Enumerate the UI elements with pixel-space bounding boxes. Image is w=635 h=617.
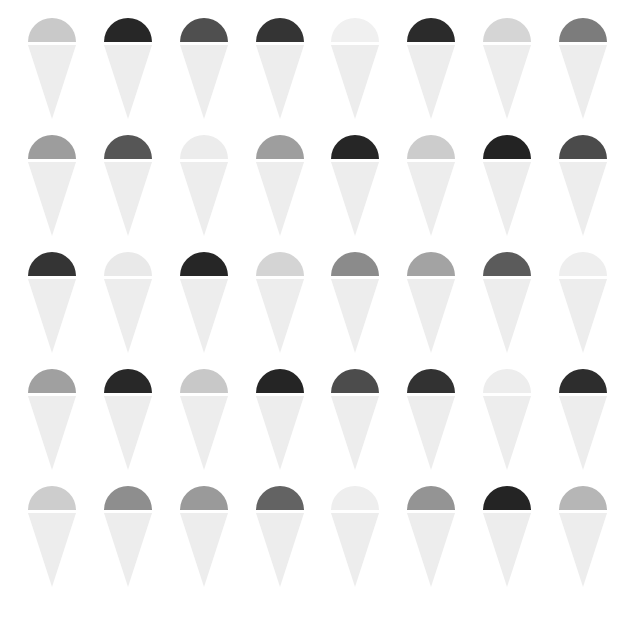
grid-cell	[242, 18, 318, 135]
cone-body	[331, 162, 379, 236]
cone-body	[28, 396, 76, 470]
cone-body	[28, 45, 76, 119]
cone-dome	[180, 135, 228, 159]
ice-cream-cone-icon	[483, 18, 531, 119]
ice-cream-cone-icon	[483, 486, 531, 587]
cone-body	[256, 45, 304, 119]
cone-body	[407, 396, 455, 470]
icon-grid-canvas	[0, 0, 635, 617]
cone-dome	[407, 369, 455, 393]
ice-cream-cone-icon	[180, 252, 228, 353]
grid-cell	[469, 18, 545, 135]
grid-cell	[166, 252, 242, 369]
cone-body	[180, 162, 228, 236]
cone-dome	[104, 252, 152, 276]
cone-dome	[483, 369, 531, 393]
grid-cell	[90, 18, 166, 135]
ice-cream-cone-icon	[104, 135, 152, 236]
grid-cell	[393, 252, 469, 369]
cone-dome	[256, 135, 304, 159]
grid-cell	[242, 369, 318, 486]
ice-cream-cone-icon	[407, 486, 455, 587]
cone-dome	[180, 18, 228, 42]
cone-dome	[559, 369, 607, 393]
ice-cream-cone-icon	[28, 252, 76, 353]
cone-body	[559, 396, 607, 470]
cone-dome	[331, 18, 379, 42]
cone-body	[28, 513, 76, 587]
cone-dome	[180, 369, 228, 393]
ice-cream-cone-icon	[559, 486, 607, 587]
cone-body	[256, 396, 304, 470]
ice-cream-cone-icon	[559, 18, 607, 119]
ice-cream-cone-icon	[331, 369, 379, 470]
cone-body	[331, 279, 379, 353]
cone-body	[180, 45, 228, 119]
grid-cell	[90, 486, 166, 603]
cone-body	[483, 279, 531, 353]
cone-dome	[407, 252, 455, 276]
ice-cream-cone-icon	[180, 18, 228, 119]
grid-cell	[14, 135, 90, 252]
cone-body	[559, 162, 607, 236]
cone-body	[180, 513, 228, 587]
ice-cream-cone-icon	[104, 18, 152, 119]
cone-body	[104, 279, 152, 353]
cone-body	[483, 513, 531, 587]
ice-cream-cone-icon	[559, 135, 607, 236]
ice-cream-cone-icon	[180, 369, 228, 470]
grid-cell	[393, 18, 469, 135]
cone-dome	[407, 486, 455, 510]
ice-cream-cone-icon	[559, 252, 607, 353]
grid-cell	[242, 252, 318, 369]
cone-icon-grid	[0, 0, 635, 617]
ice-cream-cone-icon	[28, 135, 76, 236]
cone-body	[104, 513, 152, 587]
grid-cell	[545, 18, 621, 135]
ice-cream-cone-icon	[256, 486, 304, 587]
cone-dome	[483, 486, 531, 510]
grid-cell	[318, 369, 394, 486]
cone-body	[180, 279, 228, 353]
ice-cream-cone-icon	[483, 252, 531, 353]
cone-dome	[407, 135, 455, 159]
cone-body	[256, 162, 304, 236]
cone-dome	[28, 135, 76, 159]
cone-dome	[559, 486, 607, 510]
cone-dome	[104, 18, 152, 42]
cone-dome	[104, 135, 152, 159]
grid-cell	[242, 135, 318, 252]
cone-body	[331, 396, 379, 470]
cone-body	[407, 45, 455, 119]
cone-body	[407, 513, 455, 587]
cone-dome	[256, 486, 304, 510]
ice-cream-cone-icon	[407, 252, 455, 353]
grid-cell	[469, 369, 545, 486]
cone-dome	[28, 252, 76, 276]
ice-cream-cone-icon	[407, 135, 455, 236]
grid-cell	[14, 486, 90, 603]
grid-cell	[545, 369, 621, 486]
grid-cell	[90, 135, 166, 252]
ice-cream-cone-icon	[407, 369, 455, 470]
cone-body	[28, 162, 76, 236]
grid-cell	[318, 18, 394, 135]
grid-cell	[318, 252, 394, 369]
cone-body	[331, 513, 379, 587]
grid-cell	[90, 252, 166, 369]
ice-cream-cone-icon	[256, 18, 304, 119]
cone-body	[256, 279, 304, 353]
ice-cream-cone-icon	[483, 135, 531, 236]
cone-dome	[559, 252, 607, 276]
grid-cell	[90, 369, 166, 486]
cone-dome	[180, 252, 228, 276]
cone-body	[104, 396, 152, 470]
grid-cell	[545, 486, 621, 603]
cone-dome	[104, 369, 152, 393]
cone-body	[559, 513, 607, 587]
cone-body	[483, 396, 531, 470]
cone-dome	[331, 135, 379, 159]
ice-cream-cone-icon	[483, 369, 531, 470]
cone-dome	[256, 252, 304, 276]
ice-cream-cone-icon	[104, 369, 152, 470]
